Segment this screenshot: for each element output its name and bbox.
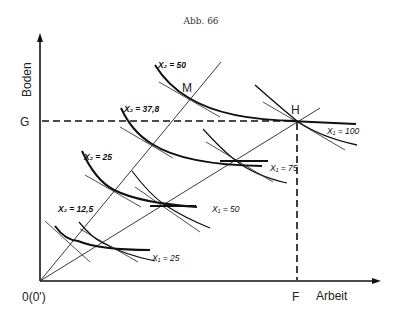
y-axis-label: Boden bbox=[20, 62, 34, 97]
origin-label: 0(0') bbox=[22, 290, 46, 304]
isoquant-x1-25 bbox=[79, 222, 155, 262]
isoquant-x1-50 bbox=[132, 171, 210, 232]
label-x1-100: X₁ = 100 bbox=[326, 126, 359, 136]
point-h-label: H bbox=[291, 103, 300, 117]
production-diagram: Abb. 66 Boden Arbeit 0(0') G F bbox=[0, 0, 402, 317]
isoquant-x1-100 bbox=[255, 85, 357, 150]
label-x1-50: X₁ = 50 bbox=[211, 204, 240, 214]
point-g-label: G bbox=[20, 115, 29, 129]
figure-caption: Abb. 66 bbox=[182, 16, 218, 26]
label-x2-37-8: X₂ = 37,8 bbox=[123, 104, 159, 114]
isoquant-x2-50 bbox=[155, 65, 297, 121]
label-x1-25: X₁ = 25 bbox=[151, 253, 180, 263]
label-x2-25: X₂ = 25 bbox=[83, 152, 112, 162]
label-x2-50: X₂ = 50 bbox=[157, 60, 186, 70]
point-f-label: F bbox=[292, 290, 299, 304]
isoquant-x1-75 bbox=[203, 129, 287, 183]
point-m-label: M bbox=[182, 81, 192, 95]
y-axis-arrow-icon bbox=[37, 33, 43, 42]
ray-om bbox=[40, 62, 221, 281]
x-axis-arrow-icon bbox=[372, 278, 381, 284]
x-axis-label: Arbeit bbox=[316, 289, 348, 303]
label-x1-75: X₁ = 75 bbox=[269, 163, 298, 173]
label-x2-12-5: X₂ = 12,5 bbox=[57, 204, 93, 214]
